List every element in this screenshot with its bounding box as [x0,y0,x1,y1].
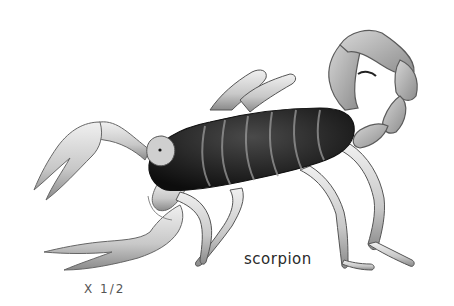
lower-pedipalp [44,180,186,270]
caption-label: scorpion [244,250,312,268]
scorpion-illustration [0,0,454,306]
scale-note: X 1/2 [84,282,125,296]
upper-pedipalp [34,122,150,200]
